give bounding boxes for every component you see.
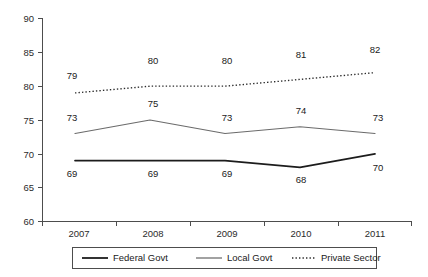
x-axis-tick-labels: 2007 2008 2009 2010 2011 bbox=[68, 228, 385, 239]
y-tick-label-75: 75 bbox=[23, 115, 34, 126]
data-label-federal-2009: 69 bbox=[222, 168, 233, 179]
data-label-private-2009: 80 bbox=[222, 55, 233, 66]
y-tick-label-85: 85 bbox=[23, 47, 34, 58]
data-label-private-2011: 82 bbox=[370, 44, 381, 55]
data-label-local-2007: 73 bbox=[67, 112, 78, 123]
legend-label-private-sector: Private Sector bbox=[321, 252, 381, 263]
y-tick-label-60: 60 bbox=[23, 216, 34, 227]
series-line-private-sector bbox=[75, 73, 375, 93]
legend-label-federal-govt: Federal Govt bbox=[113, 252, 168, 263]
data-label-private-2007: 79 bbox=[67, 70, 78, 81]
data-label-federal-2010: 68 bbox=[296, 174, 307, 185]
y-tick-label-70: 70 bbox=[23, 149, 34, 160]
x-tick-label-2009: 2009 bbox=[216, 228, 237, 239]
data-label-private-2010: 81 bbox=[296, 49, 307, 60]
legend-label-local-govt: Local Govt bbox=[227, 252, 273, 263]
x-axis-ticks bbox=[43, 222, 412, 227]
chart-canvas: 90 85 80 75 70 65 60 2007 2008 2009 2010… bbox=[0, 0, 428, 277]
data-label-federal-2008: 69 bbox=[148, 168, 159, 179]
data-label-local-2010: 74 bbox=[296, 105, 307, 116]
data-label-local-2011: 73 bbox=[373, 112, 384, 123]
line-chart: 90 85 80 75 70 65 60 2007 2008 2009 2010… bbox=[0, 0, 428, 277]
series-line-federal-govt bbox=[75, 154, 375, 168]
data-labels-federal-govt: 69 69 69 68 70 bbox=[67, 162, 384, 185]
x-tick-label-2010: 2010 bbox=[290, 228, 311, 239]
data-labels-private-sector: 79 80 80 81 82 bbox=[67, 44, 381, 81]
y-tick-label-80: 80 bbox=[23, 81, 34, 92]
legend: Federal Govt Local Govt Private Sector bbox=[73, 248, 381, 269]
x-tick-label-2008: 2008 bbox=[142, 228, 163, 239]
data-labels-local-govt: 73 75 73 74 73 bbox=[67, 98, 384, 123]
data-label-local-2008: 75 bbox=[148, 98, 159, 109]
y-axis-tick-labels: 90 85 80 75 70 65 60 bbox=[23, 13, 34, 227]
data-label-federal-2007: 69 bbox=[67, 168, 78, 179]
data-label-federal-2011: 70 bbox=[373, 162, 384, 173]
data-label-local-2009: 73 bbox=[222, 112, 233, 123]
y-tick-label-65: 65 bbox=[23, 182, 34, 193]
x-tick-label-2011: 2011 bbox=[365, 228, 385, 239]
y-axis-ticks bbox=[38, 19, 43, 222]
data-label-private-2008: 80 bbox=[148, 55, 159, 66]
x-tick-label-2007: 2007 bbox=[68, 228, 89, 239]
y-tick-label-90: 90 bbox=[23, 13, 34, 24]
